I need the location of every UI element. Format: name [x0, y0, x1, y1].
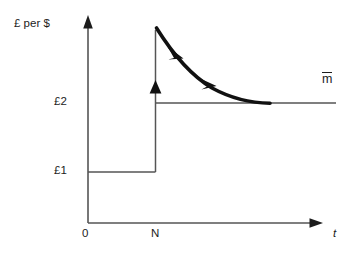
equilibrium-level-label-glyph: m — [322, 72, 332, 86]
overshooting-figure: £ per $ t £2 £1 0 N m — [0, 0, 363, 256]
axes-group — [83, 15, 323, 228]
jump-up-arrowhead-icon — [150, 80, 162, 94]
y-axis-label: £ per $ — [14, 18, 50, 30]
x-axis-label: t — [333, 228, 336, 240]
x-tick-label-n: N — [151, 228, 159, 240]
x-axis-arrowhead-icon — [310, 218, 324, 228]
jump-line-group — [150, 30, 162, 172]
overshooting-curve-group — [157, 28, 271, 103]
equilibrium-level-label: m — [322, 72, 332, 86]
y-axis-arrowhead-icon — [83, 15, 93, 29]
y-tick-label-1: £1 — [54, 165, 67, 177]
overshooting-decay-curve — [157, 28, 271, 103]
x-tick-label-origin: 0 — [82, 228, 88, 240]
y-tick-label-2: £2 — [54, 96, 67, 108]
decay-arrowhead-icon-1 — [168, 47, 184, 60]
chart-canvas — [0, 0, 363, 256]
